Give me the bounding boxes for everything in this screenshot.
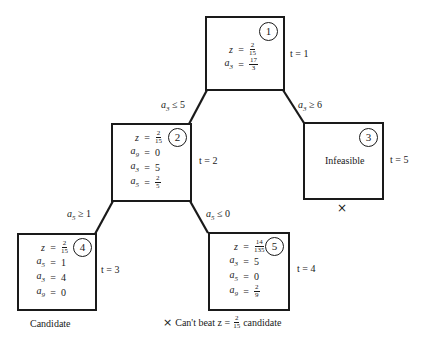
fraction: 29	[254, 284, 260, 299]
node-1: 1 z = 215 a3 = 173	[205, 16, 285, 91]
edge-label-1-2: a3 ≤ 5	[161, 99, 185, 113]
node-number-badge: 3	[359, 128, 378, 147]
iteration-label: t = 2	[199, 155, 217, 166]
node-values: z = 14135 a3 = 5 a5 = 0 a9 = 29	[216, 239, 265, 299]
iteration-label: t = 5	[390, 154, 408, 165]
value-row-a9: a9 = 29	[216, 284, 265, 299]
fraction: 215	[155, 130, 162, 145]
fraction: 14135	[254, 239, 265, 254]
pruned-cross-icon: ×	[337, 201, 347, 215]
iteration-label: t = 1	[290, 48, 308, 59]
node-number-badge: 1	[259, 22, 278, 41]
pruned-cross-icon: ×	[163, 316, 172, 329]
iteration-label: t = 3	[101, 264, 119, 275]
node-4: 4 z = 215 a5 = 1 a3 = 4 a9 = 0	[17, 233, 97, 311]
iteration-label: t = 4	[297, 263, 315, 274]
value-row-a5: a5 = 25	[117, 175, 162, 190]
fraction: 25	[155, 175, 161, 190]
fraction: 215	[233, 315, 240, 330]
candidate-caption: Candidate	[30, 318, 71, 329]
node-values: z = 215 a9 = 0 a3 = 5 a5 = 25	[117, 130, 162, 190]
node-values: z = 215 a5 = 1 a3 = 4 a9 = 0	[23, 240, 68, 300]
node-3: 3 Infeasible	[303, 122, 384, 200]
infeasible-status: Infeasible	[325, 155, 364, 166]
node-2: 2 z = 215 a9 = 0 a3 = 5 a5 = 25	[111, 123, 192, 202]
value-row-a3: a3 = 173	[211, 57, 258, 72]
fraction: 215	[61, 240, 68, 255]
edge-1-2	[189, 90, 207, 124]
fraction: 215	[249, 42, 256, 57]
node-number-badge: 5	[265, 237, 284, 256]
pruning-note: × Can't beat z = 215 candidate	[163, 315, 281, 330]
node-number-badge: 2	[168, 128, 187, 147]
edge-label-2-4: a5 ≥ 1	[67, 208, 91, 222]
edge-2-4	[95, 201, 113, 234]
node-5: 5 z = 14135 a3 = 5 a5 = 0 a9 = 29	[208, 232, 290, 311]
node-values: z = 215 a3 = 173	[211, 42, 258, 72]
edge-label-1-3: a3 ≥ 6	[298, 99, 322, 113]
edge-label-2-5: a5 ≤ 0	[206, 208, 230, 222]
value-row-a9: a9 = 0	[23, 285, 68, 300]
node-number-badge: 4	[73, 238, 92, 257]
fraction: 173	[249, 57, 258, 72]
